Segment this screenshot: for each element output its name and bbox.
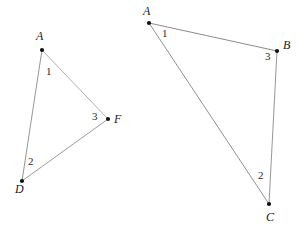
figure-canvas [0,0,302,228]
vertex-label-a-right: A [143,5,150,17]
edge-a-b [149,23,277,51]
edge-b-c [269,51,277,204]
vertex-dot-b [275,49,279,53]
angle-label-3-right: 3 [265,51,271,62]
vertex-label-c: C [266,211,274,223]
vertex-label-f: F [114,113,121,125]
vertex-label-b: B [283,39,290,51]
vertex-dot-a-left [40,48,44,52]
edge-a-c [149,23,269,204]
angle-label-1-left: 1 [46,66,52,77]
edge-d-f [22,119,108,181]
angle-label-3-left: 3 [92,111,98,122]
vertex-label-d: D [15,183,24,195]
angle-label-2-left: 2 [28,156,34,167]
vertex-dot-a-right [147,21,151,25]
vertex-label-a-left: A [36,30,43,42]
vertex-dot-c [267,202,271,206]
edge-a-f [42,50,108,119]
angle-label-2-right: 2 [258,170,264,181]
geometry-figure: A D F 1 2 3 A B C 1 2 3 [0,0,302,228]
vertex-dot-f [106,117,110,121]
angle-label-1-right: 1 [162,28,168,39]
